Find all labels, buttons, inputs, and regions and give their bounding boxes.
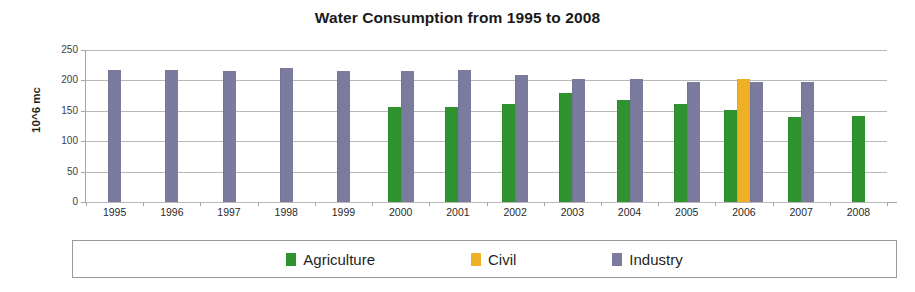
bar-group [601, 50, 658, 202]
bar-agriculture-2003[interactable] [559, 93, 572, 202]
bar-group [830, 50, 887, 202]
bar-agriculture-2002[interactable] [502, 104, 515, 202]
x-tick-label-2001: 2001 [429, 206, 486, 218]
y-tick-label: 250 [48, 44, 78, 55]
bar-group [487, 50, 544, 202]
bar-industry-2007[interactable] [801, 82, 814, 202]
plot-area [86, 50, 887, 202]
chart-title: Water Consumption from 1995 to 2008 [0, 9, 915, 27]
y-tick-label: 100 [48, 135, 78, 146]
bar-agriculture-2005[interactable] [674, 104, 687, 202]
legend-item-civil[interactable]: Civil [471, 252, 516, 267]
bar-group [143, 50, 200, 202]
x-tick-label-2008: 2008 [830, 206, 887, 218]
bar-civil-2006[interactable] [737, 79, 750, 202]
y-tick-label: 50 [48, 166, 78, 177]
bar-agriculture-2006[interactable] [724, 110, 737, 202]
bar-industry-1997[interactable] [223, 71, 236, 202]
x-tick-label-2003: 2003 [544, 206, 601, 218]
y-tick-label: 150 [48, 105, 78, 116]
x-tick-mark [887, 202, 888, 206]
bar-group [258, 50, 315, 202]
legend-swatch-industry-icon [612, 253, 622, 266]
legend-item-industry[interactable]: Industry [612, 252, 682, 267]
bar-group [544, 50, 601, 202]
bar-industry-1995[interactable] [108, 70, 121, 202]
x-tick-label-1997: 1997 [200, 206, 257, 218]
bar-agriculture-2008[interactable] [852, 116, 865, 202]
bar-industry-1999[interactable] [337, 71, 350, 202]
x-tick-label-1996: 1996 [143, 206, 200, 218]
legend-swatch-civil-icon [471, 253, 481, 266]
bar-group [429, 50, 486, 202]
x-tick-label-1999: 1999 [315, 206, 372, 218]
bar-industry-1996[interactable] [165, 70, 178, 202]
bar-industry-2001[interactable] [458, 70, 471, 202]
bar-industry-1998[interactable] [280, 68, 293, 202]
bar-agriculture-2000[interactable] [388, 107, 401, 202]
x-tick-label-2004: 2004 [601, 206, 658, 218]
bar-agriculture-2001[interactable] [445, 107, 458, 202]
bar-industry-2006[interactable] [750, 82, 763, 202]
x-tick-label-1998: 1998 [258, 206, 315, 218]
chart-legend: AgricultureCivilIndustry [72, 240, 897, 278]
bar-agriculture-2007[interactable] [788, 117, 801, 202]
bar-group [200, 50, 257, 202]
bar-industry-2000[interactable] [401, 71, 414, 202]
x-tick-label-2000: 2000 [372, 206, 429, 218]
x-tick-label-2002: 2002 [487, 206, 544, 218]
x-tick-label-2005: 2005 [658, 206, 715, 218]
legend-label-civil: Civil [488, 252, 516, 267]
bar-group [86, 50, 143, 202]
bar-group [715, 50, 772, 202]
y-axis-label: 10^6 mc [30, 65, 42, 155]
y-tick-label: 200 [48, 74, 78, 85]
x-tick-label-2006: 2006 [715, 206, 772, 218]
y-tick-label: 0 [48, 196, 78, 207]
bar-industry-2003[interactable] [572, 79, 585, 202]
bar-industry-2004[interactable] [630, 79, 643, 202]
legend-label-industry: Industry [629, 252, 682, 267]
bar-group [773, 50, 830, 202]
bar-group [315, 50, 372, 202]
bar-group [658, 50, 715, 202]
legend-label-agriculture: Agriculture [303, 252, 375, 267]
chart-container: Water Consumption from 1995 to 2008 10^6… [0, 0, 915, 292]
x-tick-label-1995: 1995 [86, 206, 143, 218]
legend-item-agriculture[interactable]: Agriculture [286, 252, 375, 267]
bar-industry-2002[interactable] [515, 75, 528, 202]
bar-group [372, 50, 429, 202]
x-tick-label-2007: 2007 [773, 206, 830, 218]
bar-industry-2005[interactable] [687, 82, 700, 202]
legend-swatch-agriculture-icon [286, 253, 296, 266]
bar-agriculture-2004[interactable] [617, 100, 630, 202]
